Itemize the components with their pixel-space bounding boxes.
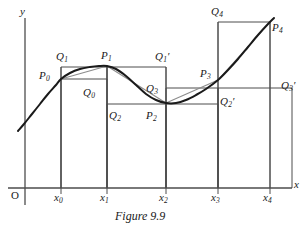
point-label-P1: P1 <box>101 50 112 63</box>
x-tick-label-3: x3 <box>211 192 220 205</box>
y-axis-label: y <box>20 6 25 17</box>
chord-P2-P3 <box>166 80 218 103</box>
x-tick-label-4: x4 <box>263 192 272 205</box>
x-axis-label: x <box>294 179 299 190</box>
point-label-Q2-prime: Q2′ <box>220 96 234 109</box>
point-label-P4: P4 <box>272 22 283 35</box>
point-label-Q1-prime: Q1′ <box>155 51 169 64</box>
point-label-Q1: Q1 <box>56 51 68 64</box>
figure-caption: Figure 9.9 <box>115 209 165 224</box>
point-label-Q3: Q3 <box>146 83 158 96</box>
origin-label: O <box>11 190 19 201</box>
point-label-Q3-prime: Q3′ <box>281 80 295 93</box>
point-label-Q4: Q4 <box>211 6 223 19</box>
figure-9-9: y x O x0 x1 x2 x3 x4 P0 P1 P2 P3 P4 Q0 Q… <box>0 0 308 235</box>
point-label-P0: P0 <box>39 70 50 83</box>
x-tick-label-1: x1 <box>100 192 109 205</box>
point-label-P2: P2 <box>146 110 157 123</box>
point-label-Q2: Q2 <box>109 110 121 123</box>
rectangles-group <box>61 22 292 188</box>
point-label-P3: P3 <box>200 68 211 81</box>
x-tick-label-0: x0 <box>54 192 63 205</box>
x-tick-label-2: x2 <box>159 192 168 205</box>
point-label-Q0: Q0 <box>83 87 95 100</box>
